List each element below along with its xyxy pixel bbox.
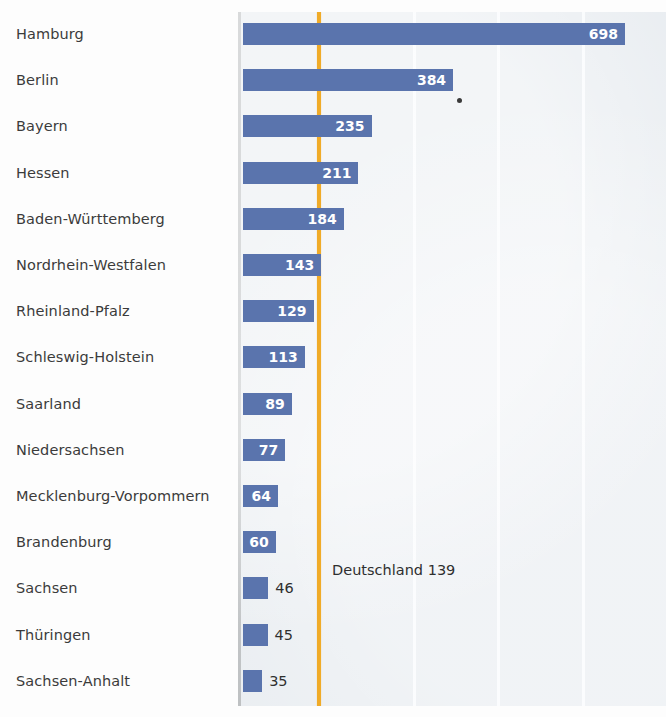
bar: 113: [243, 346, 305, 368]
category-label: Berlin: [16, 73, 232, 88]
category-label: Niedersachsen: [16, 443, 232, 458]
category-label: Thüringen: [16, 628, 232, 643]
bar-value-label: 45: [275, 627, 293, 642]
gridline-2: [582, 12, 585, 706]
bar: 77: [243, 439, 285, 461]
bar-value-label: 46: [275, 581, 293, 596]
bar-value-label: 129: [277, 304, 306, 318]
bar-value-label: 64: [252, 489, 271, 503]
value-axis-line: [238, 12, 241, 706]
bar-value-label: 698: [589, 27, 618, 41]
bar: 143: [243, 254, 321, 276]
bar: 60: [243, 531, 276, 553]
category-label: Hessen: [16, 166, 232, 181]
bar-chart: HamburgBerlinBayernHessenBaden-Württembe…: [0, 0, 666, 717]
bar: 384: [243, 69, 453, 91]
category-label: Brandenburg: [16, 535, 232, 550]
bar-value-label: 60: [249, 535, 268, 549]
bar: 45: [243, 624, 268, 646]
bar: 184: [243, 208, 344, 230]
bar: 698: [243, 23, 625, 45]
scan-artifact-speck: [457, 98, 462, 103]
reference-line-label: Deutschland 139: [332, 563, 455, 578]
category-label: Hamburg: [16, 27, 232, 42]
plot-area: 69838423521118414312911389776460464535 D…: [238, 12, 666, 706]
bar-value-label: 184: [307, 212, 336, 226]
bar: 64: [243, 485, 278, 507]
bar: 46: [243, 577, 268, 599]
category-label: Baden-Württemberg: [16, 212, 232, 227]
bar: 89: [243, 393, 292, 415]
gridline-1: [497, 12, 500, 706]
bar-value-label: 384: [417, 73, 446, 87]
category-label: Rheinland-Pfalz: [16, 304, 232, 319]
bar-value-label: 113: [269, 350, 298, 364]
bar-value-label: 77: [259, 443, 278, 457]
category-label: Mecklenburg-Vorpommern: [16, 489, 232, 504]
bar-value-label: 235: [335, 119, 364, 133]
category-label: Nordrhein-Westfalen: [16, 258, 232, 273]
category-label: Saarland: [16, 397, 232, 412]
bar: 35: [243, 670, 262, 692]
bar: 211: [243, 162, 358, 184]
category-label: Schleswig-Holstein: [16, 350, 232, 365]
bar: 129: [243, 300, 314, 322]
category-label: Sachsen-Anhalt: [16, 674, 232, 689]
category-label: Bayern: [16, 119, 232, 134]
gridline-0: [413, 12, 416, 706]
bar-value-label: 143: [285, 258, 314, 272]
category-axis: HamburgBerlinBayernHessenBaden-Württembe…: [0, 12, 238, 706]
bar-value-label: 211: [322, 166, 351, 180]
bar-value-label: 89: [265, 397, 284, 411]
bar-value-label: 35: [269, 674, 287, 689]
category-label: Sachsen: [16, 581, 232, 596]
bar: 235: [243, 115, 372, 137]
